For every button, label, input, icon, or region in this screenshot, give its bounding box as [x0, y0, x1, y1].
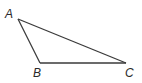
vertex-label-b: B [33, 66, 41, 80]
edge-ca [18, 19, 126, 63]
edge-ab [18, 19, 40, 63]
triangle-diagram: A B C [0, 0, 142, 83]
vertex-label-a: A [4, 7, 13, 21]
vertex-label-c: C [125, 66, 134, 80]
